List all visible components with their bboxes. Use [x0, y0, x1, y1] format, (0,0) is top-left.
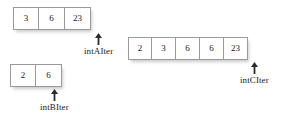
up-arrow-icon — [50, 89, 59, 101]
array-a-cell-0: 3 — [13, 7, 39, 30]
pointer-int-b-iter: intBIter — [40, 89, 69, 112]
pointer-int-a-iter-label: intAIter — [84, 46, 113, 56]
array-c-cell-3: 6 — [200, 37, 224, 60]
array-b-cell-1: 6 — [36, 64, 62, 87]
array-a: 3 6 23 — [13, 7, 91, 30]
array-a-cell-1: 6 — [39, 7, 65, 30]
pointer-int-c-iter: intCIter — [240, 62, 269, 85]
array-b-cell-0: 2 — [10, 64, 36, 87]
up-arrow-icon — [94, 33, 103, 45]
array-c-cell-0: 2 — [128, 37, 152, 60]
pointer-int-c-iter-label: intCIter — [240, 75, 269, 85]
iterator-diagram: 3 6 23 intAIter 2 6 intBIter 2 3 6 6 23 — [0, 0, 288, 121]
array-c-cell-1: 3 — [152, 37, 176, 60]
array-a-cell-2: 23 — [65, 7, 91, 30]
array-c: 2 3 6 6 23 — [128, 37, 248, 60]
array-b: 2 6 — [10, 64, 62, 87]
array-c-cell-4: 23 — [224, 37, 248, 60]
pointer-int-b-iter-label: intBIter — [40, 102, 69, 112]
pointer-int-a-iter: intAIter — [84, 33, 113, 56]
up-arrow-icon — [250, 62, 259, 74]
array-c-cell-2: 6 — [176, 37, 200, 60]
